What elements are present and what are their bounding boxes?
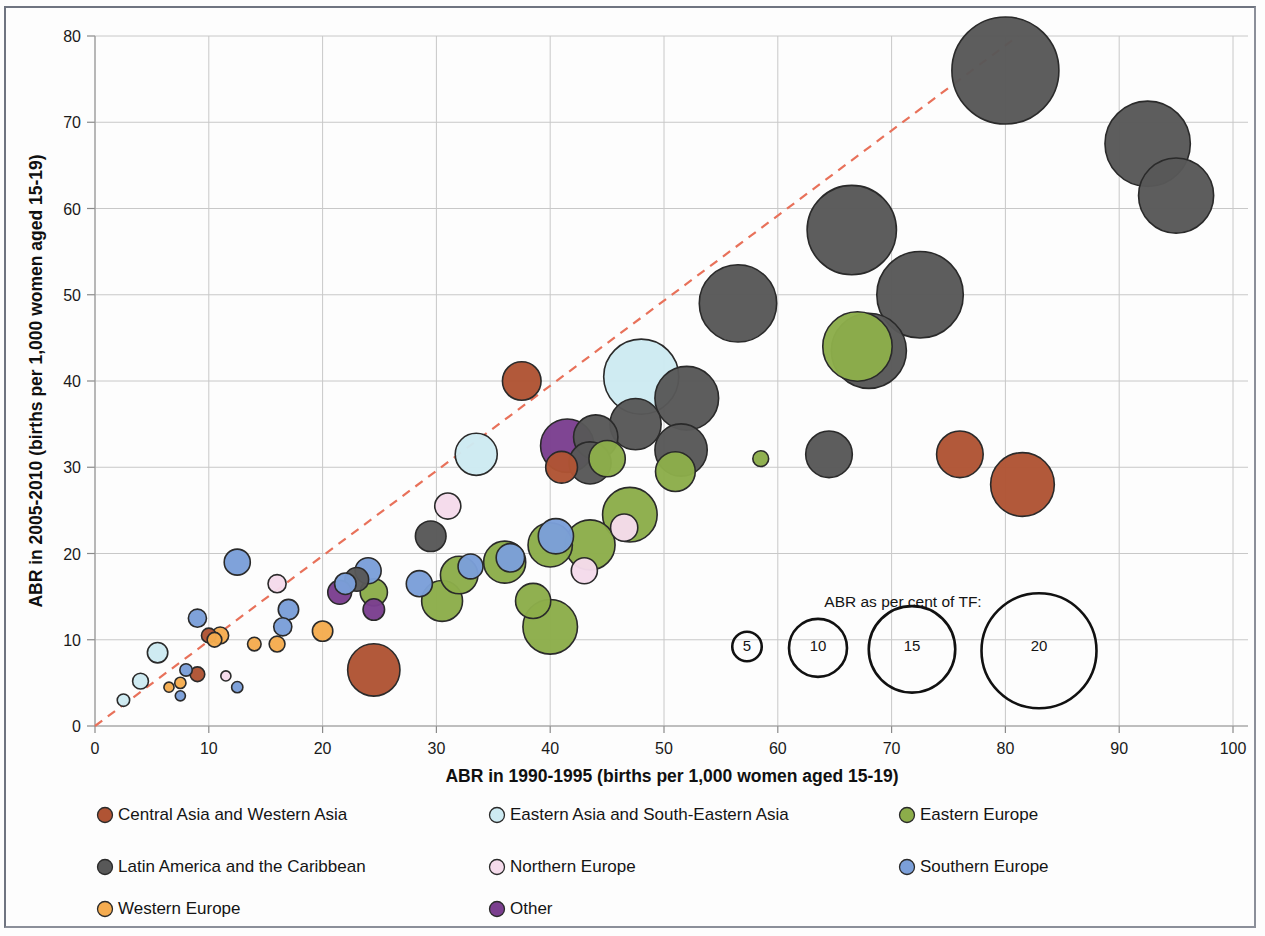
legend-marker — [900, 808, 915, 823]
bubble-point — [147, 642, 167, 662]
legend-item-label: Other — [510, 899, 553, 918]
bubble-point — [164, 682, 174, 692]
legend-item-label: Central Asia and Western Asia — [118, 805, 348, 824]
bubble-point — [221, 671, 231, 681]
bubble-point — [269, 636, 285, 652]
bubble-point — [268, 575, 286, 593]
legend-item-label: Northern Europe — [510, 857, 636, 876]
bubble-point — [496, 544, 524, 572]
bubble-point — [363, 599, 385, 621]
legend-marker — [900, 860, 915, 875]
x-tick-labels: 0102030405060708090100 — [91, 740, 1247, 757]
bubble-point — [117, 694, 129, 706]
bubble-point — [611, 514, 638, 541]
bubble-point — [335, 573, 357, 595]
bubble-chart: 0102030405060708090100 01020304050607080… — [0, 0, 1265, 936]
legend-marker — [490, 860, 505, 875]
y-tick-label: 60 — [63, 201, 81, 218]
x-axis-title: ABR in 1990-1995 (births per 1,000 women… — [445, 766, 898, 786]
size-legend-value: 15 — [904, 637, 921, 654]
y-tick-label: 70 — [63, 114, 81, 131]
bubble-point — [435, 493, 461, 519]
bubble-point — [175, 677, 186, 688]
x-tick-label: 30 — [428, 740, 446, 757]
y-tick-label: 0 — [72, 718, 81, 735]
size-legend-value: 10 — [810, 637, 827, 654]
legend-item-label: Eastern Asia and South-Eastern Asia — [510, 805, 789, 824]
bubble-point — [278, 599, 298, 619]
category-legend: Central Asia and Western AsiaEastern Asi… — [98, 805, 1049, 918]
size-legend-value: 5 — [743, 637, 751, 654]
x-tick-label: 10 — [200, 740, 218, 757]
bubble-point — [753, 451, 769, 467]
legend-item-label: Latin America and the Caribbean — [118, 857, 366, 876]
bubble-point — [516, 583, 551, 618]
bubble-point — [133, 673, 149, 689]
bubble-series-group — [117, 17, 1213, 706]
bubble-point — [656, 452, 696, 492]
bubble-point — [232, 682, 243, 693]
legend-marker — [98, 902, 113, 917]
page-background: 0102030405060708090100 01020304050607080… — [0, 0, 1265, 936]
y-tick-label: 30 — [63, 459, 81, 476]
bubble-point — [175, 691, 185, 701]
bubble-point — [571, 558, 597, 584]
x-tick-label: 50 — [655, 740, 673, 757]
bubble-point — [806, 431, 853, 478]
x-tick-label: 100 — [1220, 740, 1247, 757]
size-legend: ABR as per cent of TF: 5101520 — [732, 593, 1096, 708]
bubble-point — [991, 453, 1055, 517]
legend-item-label: Western Europe — [118, 899, 241, 918]
size-legend-value: 20 — [1031, 637, 1048, 654]
bubble-point — [502, 362, 541, 401]
legend-marker — [98, 808, 113, 823]
bubble-point — [312, 621, 332, 641]
x-tick-label: 70 — [883, 740, 901, 757]
bubble-point — [224, 549, 250, 575]
bubble-point — [699, 265, 776, 342]
bubble-point — [406, 571, 432, 597]
x-tick-label: 40 — [541, 740, 559, 757]
x-tick-label: 60 — [769, 740, 787, 757]
bubble-point — [546, 451, 578, 483]
y-tick-labels: 01020304050607080 — [63, 28, 81, 735]
y-tick-label: 50 — [63, 287, 81, 304]
bubble-point — [655, 366, 719, 430]
bubble-point — [188, 609, 206, 627]
bubble-point — [807, 185, 896, 274]
x-tick-label: 0 — [91, 740, 100, 757]
x-tick-label: 90 — [1110, 740, 1128, 757]
y-tick-label: 10 — [63, 632, 81, 649]
bubble-point — [458, 554, 483, 579]
bubble-point — [1139, 158, 1214, 233]
bubble-point — [455, 433, 497, 475]
legend-item-label: Eastern Europe — [920, 805, 1038, 824]
bubble-point — [823, 312, 892, 381]
legend-item-label: Southern Europe — [920, 857, 1049, 876]
chart-svg: 0102030405060708090100 01020304050607080… — [0, 0, 1265, 936]
bubble-point — [180, 664, 192, 676]
x-tick-label: 80 — [997, 740, 1015, 757]
bubble-point — [415, 521, 446, 552]
y-tick-label: 80 — [63, 28, 81, 45]
y-tick-label: 20 — [63, 546, 81, 563]
bubble-point — [589, 440, 625, 476]
y-tick-label: 40 — [63, 373, 81, 390]
y-axis-title: ABR in 2005-2010 (births per 1,000 women… — [26, 154, 46, 607]
bubble-point — [274, 618, 292, 636]
bubble-point — [348, 644, 400, 696]
bubble-point — [207, 632, 222, 647]
bubble-point — [952, 17, 1059, 124]
x-tick-label: 20 — [314, 740, 332, 757]
bubble-point — [937, 431, 984, 478]
legend-marker — [490, 808, 505, 823]
bubble-point — [248, 637, 262, 651]
legend-marker — [490, 902, 505, 917]
legend-marker — [98, 860, 113, 875]
bubble-point — [538, 519, 573, 554]
